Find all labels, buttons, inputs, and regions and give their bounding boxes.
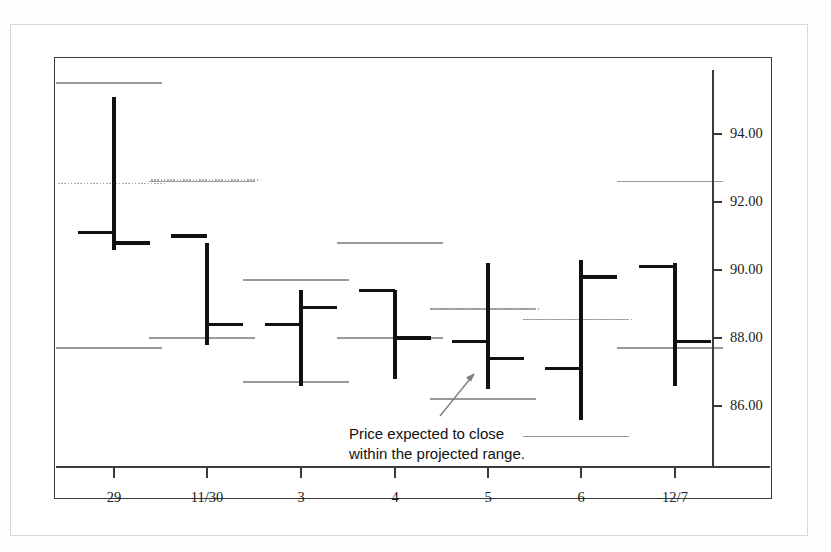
y-axis-tick-label: 92.00 [730, 193, 763, 210]
y-axis-tick-label: 86.00 [730, 397, 763, 414]
x-axis-tick-label: 3 [297, 489, 304, 506]
y-axis-tick-label: 94.00 [730, 125, 763, 142]
y-axis-tick-label: 88.00 [730, 329, 763, 346]
ohlc-chart-canvas [0, 0, 831, 552]
projected-range-annotation: Price expected to close within the proje… [349, 424, 619, 464]
x-axis-tick-label: 12/7 [662, 489, 688, 506]
x-axis-tick-label: 5 [484, 489, 491, 506]
y-axis-tick-label: 90.00 [730, 261, 763, 278]
annotation-line-1: Price expected to close [349, 424, 619, 444]
x-axis-tick-label: 6 [577, 489, 584, 506]
x-axis-tick-label: 11/30 [191, 489, 224, 506]
axis-tick-marks [56, 70, 770, 478]
ohlc-bar-group [78, 97, 711, 420]
x-axis-tick-label: 4 [391, 489, 398, 506]
projection-range-lines [56, 83, 723, 437]
x-axis-tick-label: 29 [107, 489, 122, 506]
annotation-line-2: within the projected range. [349, 444, 619, 464]
projection-midline-dotted [58, 180, 633, 319]
callout-arrow [440, 374, 474, 416]
